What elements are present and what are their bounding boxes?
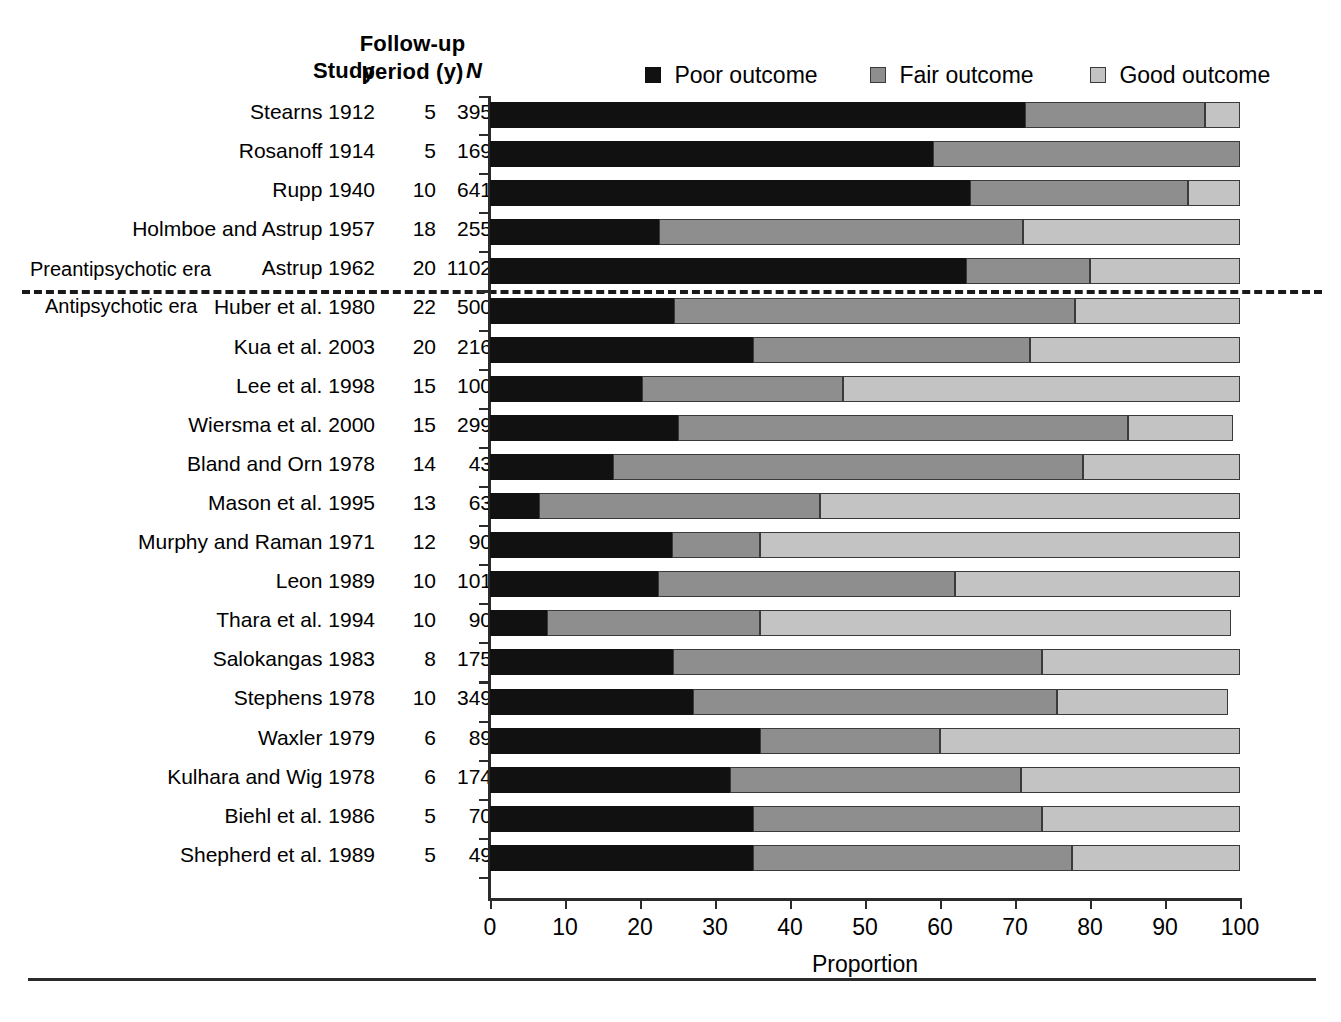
bar-segment-poor bbox=[490, 728, 760, 754]
row-study-label: Rosanoff 1914 bbox=[239, 139, 375, 163]
row-study-label: Thara et al. 1994 bbox=[216, 608, 375, 632]
column-header-followup: Follow-up period (y) bbox=[355, 30, 470, 86]
row-n-value: 349 bbox=[440, 686, 492, 710]
stacked-bar bbox=[490, 454, 1240, 480]
row-n-value: 395 bbox=[440, 100, 492, 124]
x-axis-tick bbox=[940, 898, 942, 909]
x-axis-tick bbox=[565, 898, 567, 909]
bar-segment-poor bbox=[490, 532, 672, 558]
y-axis-tick bbox=[479, 603, 489, 605]
bar-segment-fair bbox=[642, 376, 842, 402]
stacked-bar bbox=[490, 845, 1240, 871]
x-axis-tick bbox=[865, 898, 867, 909]
bar-segment-good bbox=[940, 728, 1240, 754]
row-study-label: Waxler 1979 bbox=[258, 726, 375, 750]
x-axis-tick-label: 20 bbox=[627, 914, 653, 941]
stacked-bar bbox=[490, 415, 1240, 441]
bar-segment-fair bbox=[1025, 102, 1205, 128]
row-study-label: Holmboe and Astrup 1957 bbox=[132, 217, 375, 241]
bar-segment-good bbox=[1042, 806, 1240, 832]
stacked-bar bbox=[490, 337, 1240, 363]
bar-segment-poor bbox=[490, 845, 753, 871]
y-axis-tick bbox=[479, 447, 489, 449]
bar-segment-fair bbox=[693, 689, 1058, 715]
figure-container: Study Follow-up period (y) N Poor outcom… bbox=[0, 0, 1341, 1022]
bar-segment-good bbox=[1072, 845, 1240, 871]
bar-segment-fair bbox=[760, 728, 940, 754]
bar-segment-fair bbox=[753, 806, 1043, 832]
row-n-value: 89 bbox=[440, 726, 492, 750]
bar-segment-poor bbox=[490, 258, 966, 284]
x-axis-tick-label: 50 bbox=[852, 914, 878, 941]
bar-segment-poor bbox=[490, 493, 539, 519]
row-n-value: 216 bbox=[440, 335, 492, 359]
stacked-bar bbox=[490, 141, 1240, 167]
bar-segment-fair bbox=[678, 415, 1128, 441]
legend-item-good: Good outcome bbox=[1090, 62, 1270, 89]
legend-item-poor: Poor outcome bbox=[645, 62, 818, 89]
bar-segment-good bbox=[843, 376, 1241, 402]
y-axis-tick bbox=[479, 330, 489, 332]
legend-swatch-poor-icon bbox=[645, 67, 661, 83]
y-axis-tick bbox=[479, 564, 489, 566]
row-n-value: 100 bbox=[440, 374, 492, 398]
y-axis-tick bbox=[479, 681, 489, 683]
row-study-label: Kua et al. 2003 bbox=[234, 335, 375, 359]
row-followup-value: 20 bbox=[388, 256, 436, 280]
y-axis-tick bbox=[479, 408, 489, 410]
row-followup-value: 14 bbox=[388, 452, 436, 476]
bar-segment-poor bbox=[490, 415, 678, 441]
row-followup-value: 12 bbox=[388, 530, 436, 554]
y-axis-tick bbox=[479, 173, 489, 175]
row-study-label: Wiersma et al. 2000 bbox=[188, 413, 375, 437]
stacked-bar bbox=[490, 532, 1240, 558]
stacked-bar bbox=[490, 728, 1240, 754]
row-study-label: Shepherd et al. 1989 bbox=[180, 843, 375, 867]
y-axis-tick bbox=[479, 877, 489, 879]
bar-segment-poor bbox=[490, 649, 673, 675]
row-study-label: Salokangas 1983 bbox=[213, 647, 375, 671]
bar-segment-good bbox=[955, 571, 1240, 597]
row-followup-value: 5 bbox=[388, 100, 436, 124]
row-study-label: Mason et al. 1995 bbox=[208, 491, 375, 515]
row-study-label: Huber et al. 1980 bbox=[214, 295, 375, 319]
bar-segment-poor bbox=[490, 806, 753, 832]
row-study-label: Bland and Orn 1978 bbox=[187, 452, 375, 476]
bar-segment-poor bbox=[490, 689, 693, 715]
stacked-bar bbox=[490, 219, 1240, 245]
row-followup-value: 15 bbox=[388, 413, 436, 437]
plot-area: Proportion 0102030405060708090100 bbox=[490, 96, 1240, 896]
row-followup-value: 10 bbox=[388, 608, 436, 632]
row-study-label: Stephens 1978 bbox=[234, 686, 375, 710]
bar-segment-poor bbox=[490, 298, 674, 324]
column-header-followup-line2: period (y) bbox=[355, 58, 470, 86]
bar-segment-fair bbox=[753, 845, 1073, 871]
row-followup-value: 15 bbox=[388, 374, 436, 398]
bar-segment-poor bbox=[490, 102, 1025, 128]
bar-segment-poor bbox=[490, 180, 970, 206]
x-axis-tick-label: 0 bbox=[484, 914, 497, 941]
bar-segment-good bbox=[1083, 454, 1241, 480]
stacked-bar bbox=[490, 767, 1240, 793]
row-followup-value: 10 bbox=[388, 569, 436, 593]
chart-legend: Poor outcome Fair outcome Good outcome bbox=[630, 62, 1270, 92]
row-n-value: 70 bbox=[440, 804, 492, 828]
row-study-label: Leon 1989 bbox=[276, 569, 375, 593]
bar-segment-fair bbox=[539, 493, 820, 519]
x-axis-tick-label: 10 bbox=[552, 914, 578, 941]
bar-segment-good bbox=[1042, 649, 1240, 675]
bar-segment-good bbox=[1090, 258, 1240, 284]
row-followup-value: 6 bbox=[388, 765, 436, 789]
column-header-followup-line1: Follow-up bbox=[355, 30, 470, 58]
figure-bottom-rule bbox=[28, 978, 1316, 981]
bar-segment-good bbox=[1023, 219, 1241, 245]
y-axis-tick bbox=[479, 212, 489, 214]
stacked-bar bbox=[490, 571, 1240, 597]
y-axis-tick bbox=[479, 251, 489, 253]
row-followup-value: 10 bbox=[388, 686, 436, 710]
bar-segment-fair bbox=[933, 141, 1241, 167]
stacked-bar bbox=[490, 493, 1240, 519]
row-n-value: 255 bbox=[440, 217, 492, 241]
x-axis-tick bbox=[1165, 898, 1167, 909]
row-study-label: Stearns 1912 bbox=[250, 100, 375, 124]
